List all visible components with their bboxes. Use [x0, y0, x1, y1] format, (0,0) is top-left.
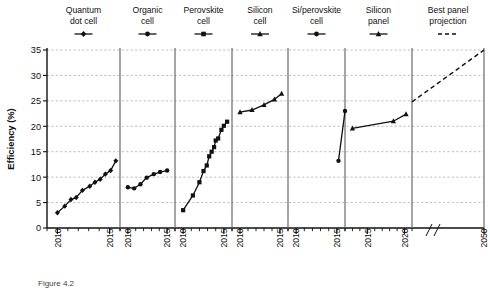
y-axis-label: Efficiency (%): [5, 108, 16, 169]
panel-title-line1: Best panel: [428, 5, 469, 15]
panel-title-line1: Organic: [132, 5, 163, 15]
y-axis-tick-label: 0: [36, 223, 41, 233]
data-point: [336, 159, 340, 163]
x-axis-tick-label: 2010: [235, 228, 245, 247]
x-axis-tick-label: 2020: [400, 228, 410, 247]
panel-title-line2: cell: [310, 16, 323, 26]
data-point: [279, 91, 284, 96]
y-axis-tick-label: 25: [31, 96, 41, 106]
y-axis-tick-label: 30: [31, 71, 41, 81]
y-axis-tick-label: 15: [31, 147, 41, 157]
series-line-best-panel-projection: [412, 50, 484, 102]
data-point: [207, 154, 211, 158]
panel-title-line2: dot cell: [70, 16, 97, 26]
x-axis-tick-label: 2010: [53, 228, 63, 247]
panel-title-line1: Perovskite: [183, 5, 223, 15]
data-point: [126, 185, 130, 189]
data-point: [145, 175, 149, 179]
x-axis-tick-label: 2010: [291, 228, 301, 247]
y-axis-tick-label: 5: [36, 198, 41, 208]
data-point: [201, 169, 205, 173]
x-axis-tick-label: 2015: [219, 228, 229, 247]
data-point: [197, 180, 201, 184]
caption-text: Figure 4.2: [38, 279, 74, 288]
series-line-silicon-cell: [240, 94, 282, 112]
data-point: [225, 120, 229, 124]
data-point: [216, 136, 220, 140]
x-axis-tick-label: 2015: [275, 228, 285, 247]
data-point: [222, 124, 226, 128]
x-axis-tick-label: 2010: [178, 228, 188, 247]
panel-title-line2: cell: [254, 16, 267, 26]
panel-title-line1: Silicon: [247, 5, 273, 15]
data-point: [343, 109, 347, 113]
y-axis-tick-label: 35: [31, 45, 41, 55]
data-point: [158, 170, 162, 174]
series-line-si-perovskite-cell: [338, 111, 345, 161]
axis-break-mark: [434, 224, 440, 236]
data-point: [191, 193, 195, 197]
series-line-quantum-dot-cell: [57, 161, 115, 213]
data-point: [181, 208, 185, 212]
diamond-icon: [81, 31, 87, 37]
x-axis-tick-label: 2015: [105, 228, 115, 247]
data-point: [165, 168, 169, 172]
panel-title-line2: cell: [197, 16, 210, 26]
panel-title-line2: projection: [429, 16, 466, 26]
panel-title-line2: panel: [368, 16, 389, 26]
figure-caption: Figure 4.2: [38, 272, 74, 290]
data-point: [219, 128, 223, 132]
x-axis-tick-label: 2015: [162, 228, 172, 247]
data-point: [138, 182, 142, 186]
x-axis-tick-label: 2015: [332, 228, 342, 247]
circle-icon: [145, 32, 150, 37]
x-axis-tick-label: 2010: [123, 228, 133, 247]
data-point: [210, 150, 214, 154]
x-axis-tick-label: 2015: [363, 228, 373, 247]
axis-break-mark: [426, 224, 432, 236]
panel-title-line1: Quantum: [66, 5, 101, 15]
square-icon: [201, 32, 206, 37]
data-point: [132, 186, 136, 190]
data-point: [212, 145, 216, 149]
data-point: [152, 172, 156, 176]
panel-title-line2: cell: [141, 16, 154, 26]
y-axis-tick-label: 20: [31, 122, 41, 132]
data-point: [205, 163, 209, 167]
panel-title-line1: Si/perovskite: [292, 5, 341, 15]
circle-icon: [314, 32, 319, 37]
y-axis-tick-label: 10: [31, 173, 41, 183]
data-point: [403, 111, 408, 116]
x-axis-tick-label: 2050: [479, 228, 489, 247]
panel-title-line1: Silicon: [366, 5, 392, 15]
